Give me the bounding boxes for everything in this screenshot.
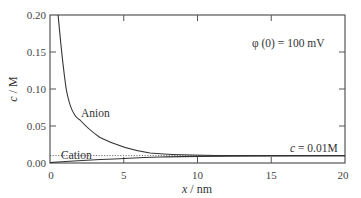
- bulk-concentration-label: c = 0.01M: [290, 142, 338, 154]
- anion-label: Anion: [81, 107, 110, 119]
- y-tick-0.05: 0.05: [27, 120, 47, 132]
- x-axis-title: x / nm: [181, 182, 213, 196]
- y-tick-0.20: 0.20: [27, 9, 47, 21]
- potential-annotation: φ (0) = 100 mV: [252, 37, 325, 50]
- x-tick-5: 5: [121, 169, 127, 181]
- y-tick-0.15: 0.15: [27, 46, 47, 58]
- y-tick-0.10: 0.10: [27, 83, 47, 95]
- x-tick-labels: 0 5 10 15 20: [48, 169, 349, 181]
- x-tick-15: 15: [266, 169, 278, 181]
- x-tick-20: 20: [338, 169, 350, 181]
- x-tick-0: 0: [48, 169, 54, 181]
- y-tick-labels: 0.20 0.15 0.10 0.05 0.00: [27, 9, 47, 169]
- x-ticks: [124, 15, 272, 163]
- y-axis-title: c / M: [6, 76, 20, 102]
- y-tick-0.00: 0.00: [27, 157, 47, 169]
- x-tick-10: 10: [192, 169, 204, 181]
- cation-label: Cation: [61, 149, 92, 161]
- concentration-profile-chart: 0.20 0.15 0.10 0.05 0.00 0 5 10 15 20 x …: [0, 0, 361, 198]
